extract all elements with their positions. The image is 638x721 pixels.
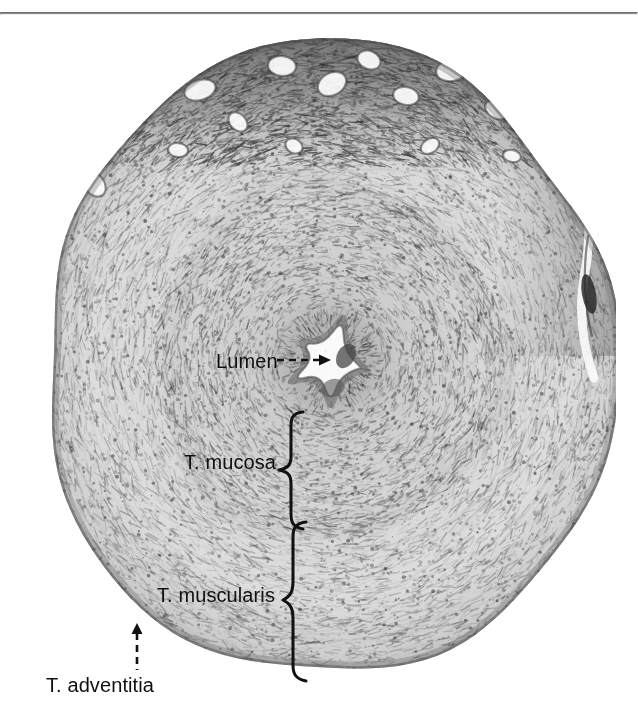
label-tunica-mucosa: T. mucosa: [184, 452, 276, 472]
figure-root: Lumen T. mucosa T. muscularis T. adventi…: [0, 0, 638, 721]
micrograph-canvas: [32, 26, 616, 698]
label-tunica-muscularis: T. muscularis: [157, 585, 275, 605]
micrograph-image: [32, 26, 616, 698]
label-tunica-adventitia: T. adventitia: [46, 675, 154, 695]
header-rule: [0, 12, 638, 15]
label-lumen: Lumen: [216, 351, 278, 371]
